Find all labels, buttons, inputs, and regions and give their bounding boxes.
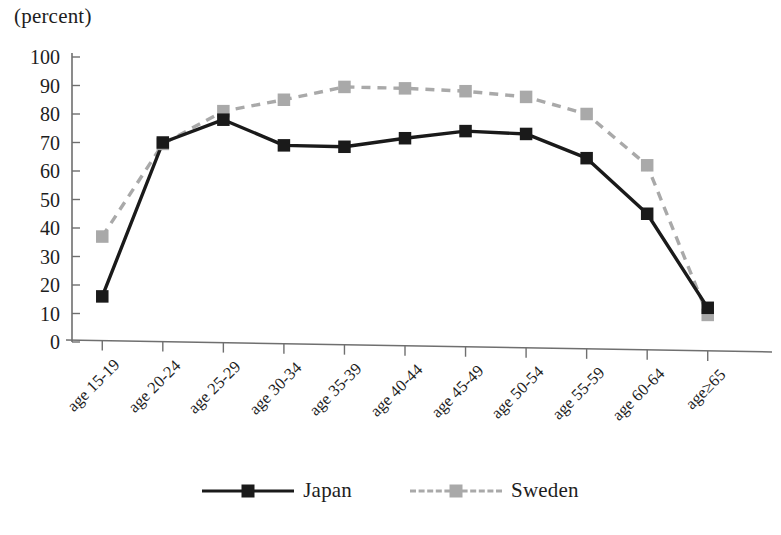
legend-swatch-japan [202, 482, 294, 500]
data-point-marker [278, 94, 291, 107]
legend-item-japan[interactable]: Japan [202, 478, 352, 503]
x-axis-line [66, 340, 772, 352]
chart-figure: (percent) 1009080706050403020100 age 15-… [0, 0, 781, 535]
data-point-marker [641, 208, 654, 221]
data-point-marker [96, 230, 109, 243]
legend-marker-icon [242, 484, 255, 497]
y-axis-tick-label: 80 [2, 103, 60, 126]
legend-label: Sweden [511, 478, 579, 503]
series-line-sweden [102, 87, 707, 315]
chart-legend: JapanSweden [0, 478, 781, 503]
y-axis-tick-label: 90 [2, 74, 60, 97]
legend-label: Japan [303, 478, 352, 503]
y-axis-tick-label: 100 [2, 46, 60, 69]
data-point-marker [701, 302, 714, 315]
data-point-marker [399, 82, 412, 95]
chart-canvas [0, 0, 781, 535]
data-point-marker [338, 141, 351, 154]
legend-item-sweden[interactable]: Sweden [410, 478, 579, 503]
data-point-marker [459, 125, 472, 138]
plot-area: 1009080706050403020100 age 15-19age 20-2… [0, 0, 781, 535]
legend-swatch-sweden [410, 482, 502, 500]
y-axis-tick-label: 70 [2, 131, 60, 154]
y-axis-tick-label: 10 [2, 302, 60, 325]
y-axis-tick-label: 30 [2, 245, 60, 268]
series-line-japan [102, 120, 707, 308]
data-point-marker [399, 132, 412, 145]
data-point-marker [520, 91, 533, 104]
data-point-marker [278, 139, 291, 152]
y-axis-tick-label: 0 [2, 331, 60, 354]
y-axis-tick-label: 20 [2, 274, 60, 297]
data-point-marker [580, 108, 593, 121]
data-point-marker [459, 85, 472, 98]
data-point-marker [641, 159, 654, 172]
data-point-marker [217, 113, 230, 126]
y-axis-tick-label: 40 [2, 217, 60, 240]
data-point-marker [520, 128, 533, 141]
y-axis-tick-label: 60 [2, 160, 60, 183]
data-point-marker [157, 136, 170, 149]
data-point-marker [96, 290, 109, 303]
y-axis-tick-label: 50 [2, 188, 60, 211]
legend-marker-icon [450, 484, 463, 497]
data-point-marker [338, 81, 351, 94]
data-point-marker [580, 152, 593, 165]
